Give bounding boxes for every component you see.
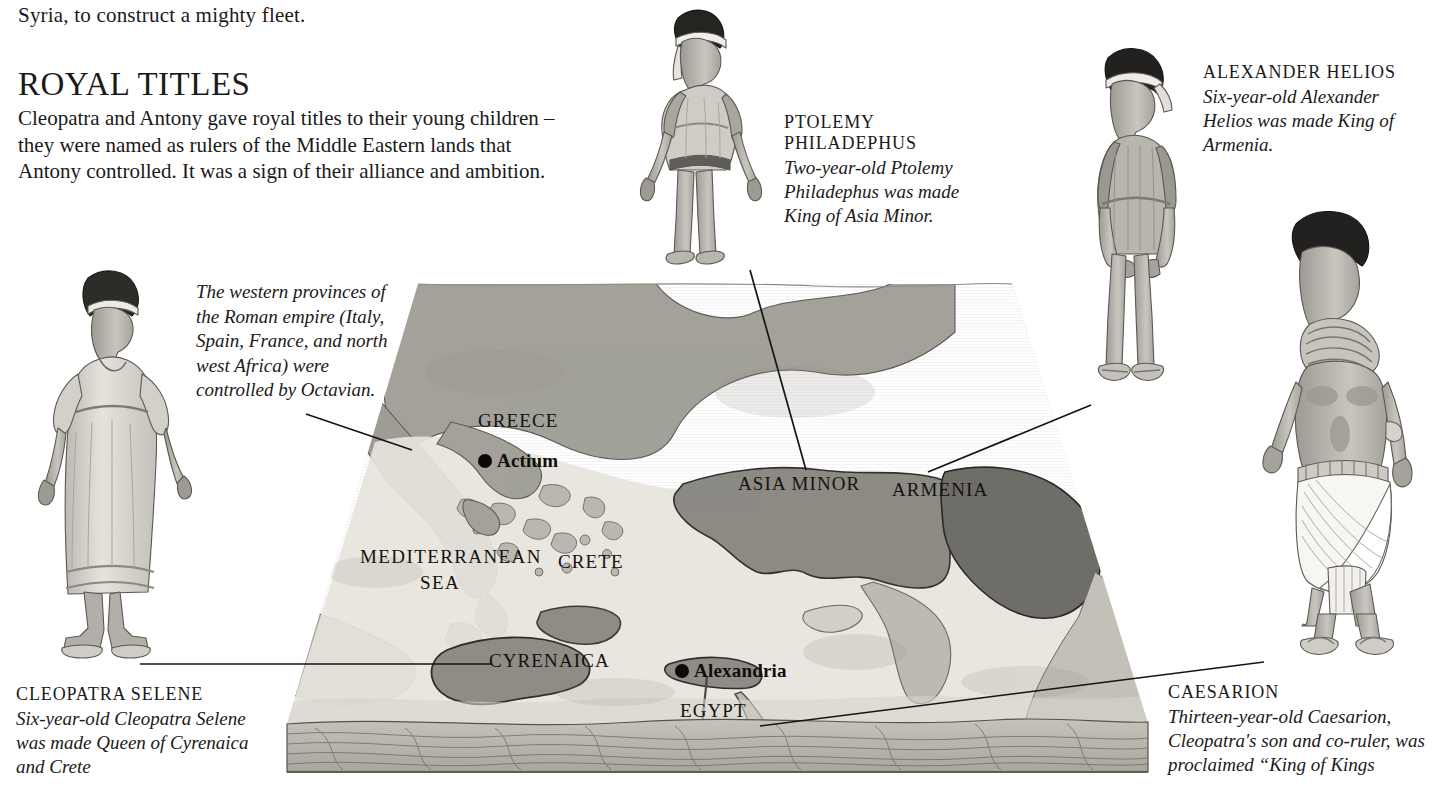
map-label-greece: Greece: [478, 410, 559, 432]
caption-ptolemy: Ptolemy Philadephus Two-year-old Ptolemy…: [784, 112, 994, 228]
figure-caesarion: [1252, 196, 1424, 666]
caption-selene-heading: Cleopatra Selene: [16, 684, 266, 705]
map-label-crete: Crete: [558, 551, 624, 573]
caption-selene-body: Six-year-old Cleopatra Selene was made Q…: [16, 707, 266, 779]
caption-alexander-heading: Alexander Helios: [1203, 62, 1425, 83]
illustration-page: Syria, to construct a mighty fleet. Roya…: [0, 0, 1435, 801]
page-title: Royal Titles: [18, 66, 538, 102]
caption-alexander-helios: Alexander Helios Six-year-old Alexander …: [1203, 62, 1425, 157]
map-label-armenia: Armenia: [892, 479, 988, 501]
map-label-sea-line2: Sea: [420, 572, 460, 594]
map-label-cyrenaica: Cyrenaica: [489, 650, 610, 672]
city-label-actium: Actium: [497, 450, 558, 472]
section-body-text: Cleopatra and Antony gave royal titles t…: [18, 105, 558, 185]
caption-alexander-body: Six-year-old Alexander Helios was made K…: [1203, 85, 1425, 157]
city-dot-actium: [478, 454, 492, 468]
figure-ptolemy-philadephus: [616, 2, 776, 276]
lead-in-text: Syria, to construct a mighty fleet.: [18, 2, 538, 28]
caption-ptolemy-heading-line1: Ptolemy: [784, 112, 994, 133]
caption-ptolemy-body: Two-year-old Ptolemy Philadephus was mad…: [784, 156, 994, 228]
caption-caesarion-heading: Caesarion: [1168, 682, 1435, 703]
map-slab-edge: [287, 719, 1148, 772]
figure-alexander-helios: [1072, 36, 1202, 412]
octavian-note: The western provinces of the Roman empir…: [196, 280, 408, 403]
caption-cleopatra-selene: Cleopatra Selene Six-year-old Cleopatra …: [16, 684, 266, 779]
caption-caesarion-body: Thirteen-year-old Caesarion, Cleopatra's…: [1168, 705, 1435, 777]
map-label-egypt: Egypt: [680, 700, 747, 722]
city-label-alexandria: Alexandria: [694, 660, 787, 682]
city-dot-alexandria: [675, 664, 689, 678]
figure-cleopatra-selene: [8, 262, 198, 674]
map-label-asia-minor: Asia Minor: [738, 473, 860, 495]
map-label-mediterranean-sea: Mediterranean: [360, 546, 542, 568]
caption-ptolemy-heading-line2: Philadephus: [784, 133, 994, 154]
caption-caesarion: Caesarion Thirteen-year-old Caesarion, C…: [1168, 682, 1435, 777]
